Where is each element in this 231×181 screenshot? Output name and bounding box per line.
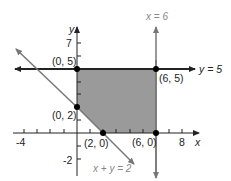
shaded-region <box>77 69 156 133</box>
point-2-0 <box>100 130 106 136</box>
x-axis-label: x <box>194 136 201 148</box>
label-line-x-equals-6: x = 6 <box>145 11 168 22</box>
label-point-2-0: (2, 0) <box>84 137 109 149</box>
tick-label-neg4: -4 <box>16 136 25 148</box>
feasible-region-graph: y x -4 8 7 -2 (0, 5) (6, 5) (0, 2) (2, 0… <box>0 0 231 181</box>
tick-label-8: 8 <box>179 136 185 148</box>
tick-label-neg2: -2 <box>63 154 72 166</box>
y-axis-label: y <box>68 23 75 35</box>
tick-label-7: 7 <box>66 37 72 49</box>
label-line-x-plus-y-equals-2: x + y = 2 <box>92 163 132 174</box>
label-point-6-0: (6, 0) <box>132 136 157 148</box>
label-point-0-2: (0, 2) <box>52 109 77 121</box>
label-point-6-5: (6, 5) <box>159 72 184 84</box>
label-point-0-5: (0, 5) <box>52 55 77 67</box>
label-line-y-equals-5: y = 5 <box>198 63 222 75</box>
